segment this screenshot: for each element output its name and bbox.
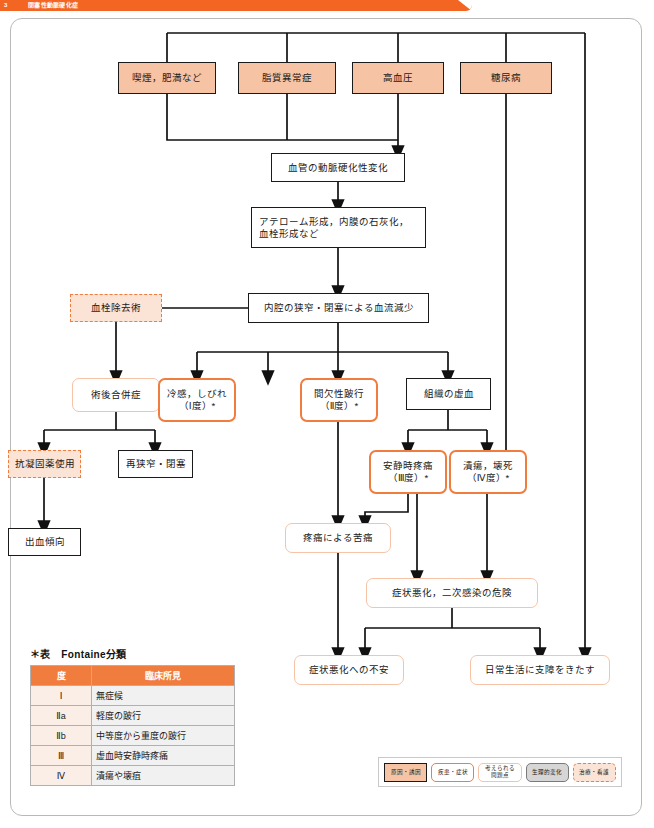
legend-item-treatment-nursing: 治療・看護 (573, 763, 616, 782)
node-worsening-infection: 症状悪化，二次感染の危険 (366, 578, 538, 608)
legend-item-disease-symptom: 疾患・症状 (431, 763, 474, 782)
fontaine-cell-finding: 潰瘍や壊疽 (92, 766, 235, 786)
node-anxiety-worsening: 症状悪化への不安 (294, 655, 404, 685)
fontaine-cell-degree: Ⅳ (31, 766, 92, 786)
fontaine-header-degree: 度 (31, 666, 92, 686)
chapter-title: 閉塞性動脈硬化症 (28, 0, 78, 11)
fontaine-cell-degree: Ⅰ (31, 686, 92, 706)
fontaine-header-finding: 臨床所見 (92, 666, 235, 686)
node-dyslipidemia: 脂質異常症 (238, 62, 336, 94)
fontaine-cell-degree: Ⅲ (31, 746, 92, 766)
legend-item-cause: 原因・誘因 (384, 763, 427, 782)
node-postop-complication: 術後合併症 (72, 378, 160, 412)
node-thrombectomy: 血栓除去術 (70, 294, 162, 322)
node-restenosis-occlusion: 再狭窄・閉塞 (118, 450, 193, 478)
node-arteriosclerotic-change: 血管の動脈硬化性変化 (271, 153, 405, 182)
node-atheroma: アテローム形成，内膜の石灰化， 血栓形成など (251, 207, 426, 248)
node-ulcer-necrosis: 潰瘍，壊死 （Ⅳ度）* (449, 450, 527, 494)
node-blood-flow-decrease: 内腔の狭窄・閉塞による血流減少 (248, 293, 429, 323)
fontaine-row: Ⅱb中等度から重度の跛行 (31, 726, 235, 746)
fontaine-cell-finding: 中等度から重度の跛行 (92, 726, 235, 746)
node-daily-life-impairment: 日常生活に支障をきたす (470, 655, 610, 685)
fontaine-row: Ⅱa軽度の跛行 (31, 706, 235, 726)
fontaine-caption: ＊表 Fontaine分類 (30, 646, 235, 661)
node-anticoagulant-use: 抗凝固薬使用 (8, 450, 81, 478)
legend-item-problem: 考えられる 問題点 (478, 763, 521, 782)
node-hypertension: 高血圧 (352, 62, 444, 94)
fontaine-cell-degree: Ⅱb (31, 726, 92, 746)
fontaine-cell-degree: Ⅱa (31, 706, 92, 726)
chapter-banner: 3 閉塞性動脈硬化症 (0, 0, 472, 11)
node-intermittent-claudication: 間欠性跛行 （Ⅱ度）* (300, 378, 378, 422)
node-coldness-numbness: 冷感，しびれ （Ⅰ度）* (158, 378, 236, 422)
fontaine-row: Ⅲ虚血時安静時疼痛 (31, 746, 235, 766)
legend: 原因・誘因 疾患・症状 考えられる 問題点 生理的変化 治療・看護 (378, 757, 622, 787)
node-pain-distress: 疼痛による苦痛 (285, 523, 391, 553)
fontaine-row: Ⅰ無症候 (31, 686, 235, 706)
fontaine-classification-table: ＊表 Fontaine分類 度 臨床所見 Ⅰ無症候Ⅱa軽度の跛行Ⅱb中等度から重… (30, 646, 235, 786)
fontaine-row: Ⅳ潰瘍や壊疽 (31, 766, 235, 786)
fontaine-cell-finding: 無症候 (92, 686, 235, 706)
fontaine-table: 度 臨床所見 Ⅰ無症候Ⅱa軽度の跛行Ⅱb中等度から重度の跛行Ⅲ虚血時安静時疼痛Ⅳ… (30, 665, 235, 786)
fontaine-header-row: 度 臨床所見 (31, 666, 235, 686)
legend-item-physiological-change: 生理的変化 (526, 763, 569, 782)
fontaine-cell-finding: 軽度の跛行 (92, 706, 235, 726)
chapter-number: 3 (4, 0, 7, 11)
node-diabetes: 糖尿病 (460, 62, 552, 94)
node-bleeding-tendency: 出血傾向 (8, 528, 81, 556)
node-smoking-obesity: 喫煙，肥満など (118, 62, 216, 94)
node-rest-pain: 安静時疼痛 （Ⅲ度）* (369, 450, 447, 494)
fontaine-cell-finding: 虚血時安静時疼痛 (92, 746, 235, 766)
node-tissue-ischemia: 組織の虚血 (406, 378, 491, 410)
